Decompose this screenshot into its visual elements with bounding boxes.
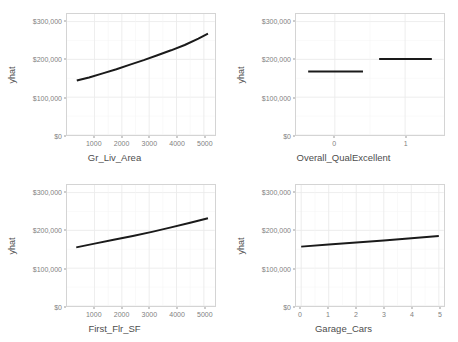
x-tick-label: 1 <box>326 311 330 318</box>
x-tick-label: 4000 <box>169 311 185 318</box>
x-tick-label: 3000 <box>142 140 158 147</box>
y-tick-mark <box>293 191 295 192</box>
y-tick-label: $100,000 <box>243 94 291 101</box>
x-axis-title: Garage_Cars <box>229 323 458 334</box>
x-tick-mark <box>204 307 205 309</box>
y-tick-label: $200,000 <box>243 227 291 234</box>
facet-panel-4: yhat$0$100,000$200,000$300,000012345Gara… <box>229 171 458 342</box>
x-tick-label: 1000 <box>86 140 102 147</box>
y-axis-title: yhat <box>4 184 18 307</box>
x-tick-label: 2000 <box>114 140 130 147</box>
y-axis-title-text: yhat <box>235 66 245 83</box>
x-tick-label: 2000 <box>114 311 130 318</box>
gridlines <box>67 14 215 135</box>
y-tick-mark <box>64 97 66 98</box>
facet-panel-3: yhat$0$100,000$200,000$300,0001000200030… <box>0 171 229 342</box>
y-tick-mark <box>293 136 295 137</box>
y-axis-title-text: yhat <box>6 66 16 83</box>
y-tick-mark <box>64 136 66 137</box>
y-tick-mark <box>64 307 66 308</box>
x-tick-mark <box>177 136 178 138</box>
x-tick-mark <box>334 136 335 138</box>
x-tick-mark <box>204 136 205 138</box>
y-tick-label: $200,000 <box>14 56 62 63</box>
y-tick-label: $0 <box>14 304 62 311</box>
x-tick-label: 1 <box>404 140 408 147</box>
y-tick-label: $300,000 <box>14 17 62 24</box>
x-tick-label: 0 <box>298 311 302 318</box>
x-tick-label: 4 <box>410 311 414 318</box>
plot-area <box>66 184 216 307</box>
y-tick-label: $0 <box>243 133 291 140</box>
y-axis-title-text: yhat <box>235 237 245 254</box>
y-axis-title: yhat <box>4 13 18 136</box>
y-tick-label: $300,000 <box>14 188 62 195</box>
y-tick-label: $100,000 <box>14 265 62 272</box>
x-tick-label: 5000 <box>197 140 213 147</box>
y-tick-mark <box>293 20 295 21</box>
y-axis-title: yhat <box>233 184 247 307</box>
plot-svg <box>296 14 444 135</box>
y-tick-label: $0 <box>243 304 291 311</box>
y-tick-mark <box>64 191 66 192</box>
facet-panel-1: yhat$0$100,000$200,000$300,0001000200030… <box>0 0 229 171</box>
y-tick-mark <box>293 307 295 308</box>
plot-area <box>66 13 216 136</box>
gridlines <box>296 14 444 135</box>
x-tick-label: 0 <box>332 140 336 147</box>
x-tick-label: 1000 <box>86 311 102 318</box>
y-tick-mark <box>293 230 295 231</box>
y-tick-label: $100,000 <box>14 94 62 101</box>
x-tick-label: 2 <box>354 311 358 318</box>
y-tick-label: $100,000 <box>243 265 291 272</box>
y-tick-label: $200,000 <box>243 56 291 63</box>
y-tick-mark <box>293 268 295 269</box>
x-tick-mark <box>93 307 94 309</box>
facet-panel-2: yhat$0$100,000$200,000$300,00001Overall_… <box>229 0 458 171</box>
x-tick-mark <box>439 307 440 309</box>
y-axis-title-text: yhat <box>6 237 16 254</box>
x-axis-title: First_Flr_SF <box>0 323 229 334</box>
x-tick-mark <box>328 307 329 309</box>
x-tick-label: 5000 <box>197 311 213 318</box>
x-tick-mark <box>93 136 94 138</box>
plot-svg <box>67 185 215 306</box>
y-tick-mark <box>293 59 295 60</box>
x-tick-mark <box>177 307 178 309</box>
y-tick-mark <box>293 97 295 98</box>
y-tick-label: $300,000 <box>243 17 291 24</box>
plot-area <box>295 184 445 307</box>
y-tick-label: $200,000 <box>14 227 62 234</box>
plot-svg <box>296 185 444 306</box>
y-tick-mark <box>64 20 66 21</box>
x-tick-label: 5 <box>438 311 442 318</box>
x-tick-mark <box>356 307 357 309</box>
x-tick-label: 3000 <box>142 311 158 318</box>
x-tick-mark <box>300 307 301 309</box>
x-tick-mark <box>149 307 150 309</box>
y-tick-mark <box>64 230 66 231</box>
x-axis-title: Gr_Liv_Area <box>0 152 229 163</box>
x-tick-mark <box>411 307 412 309</box>
x-tick-mark <box>405 136 406 138</box>
x-tick-mark <box>121 307 122 309</box>
x-axis-title: Overall_QualExcellent <box>229 152 458 163</box>
y-tick-label: $300,000 <box>243 188 291 195</box>
x-tick-label: 3 <box>382 311 386 318</box>
x-tick-mark <box>383 307 384 309</box>
plot-svg <box>67 14 215 135</box>
facet-grid: yhat$0$100,000$200,000$300,0001000200030… <box>0 0 458 342</box>
y-tick-mark <box>64 59 66 60</box>
data-line <box>76 218 208 247</box>
x-tick-mark <box>121 136 122 138</box>
y-tick-mark <box>64 268 66 269</box>
y-axis-title: yhat <box>233 13 247 136</box>
y-tick-label: $0 <box>14 133 62 140</box>
plot-area <box>295 13 445 136</box>
x-tick-mark <box>149 136 150 138</box>
x-tick-label: 4000 <box>169 140 185 147</box>
